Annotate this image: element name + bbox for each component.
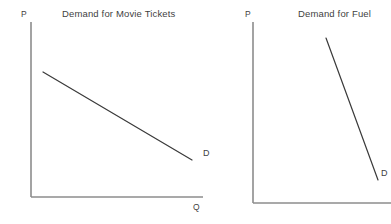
chart-plot-area-fuel: [232, 0, 391, 224]
chart-demand-for-movie-tickets: Demand for Movie Tickets P Q D: [0, 0, 215, 224]
demand-curve-label-movie-tickets: D: [203, 149, 210, 158]
figure-canvas: Demand for Movie Tickets P Q D Demand fo…: [0, 0, 391, 224]
demand-curve-movie-tickets: [43, 72, 192, 160]
demand-curve-label-fuel: D: [381, 169, 388, 178]
chart-demand-for-fuel: Demand for Fuel P D: [232, 0, 391, 224]
chart-plot-area-movie-tickets: [0, 0, 215, 224]
demand-curve-fuel: [326, 38, 378, 180]
